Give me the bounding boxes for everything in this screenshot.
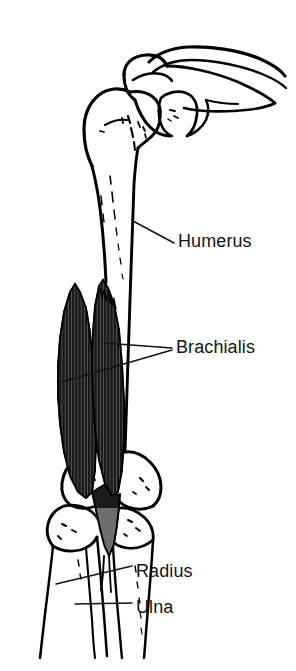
leader-line-humerus bbox=[133, 221, 174, 243]
anatomy-figure: Humerus Brachialis Radius Ulna bbox=[0, 0, 296, 671]
leader-line-ulna bbox=[75, 603, 132, 604]
label-brachialis: Brachialis bbox=[176, 338, 255, 356]
label-ulna: Ulna bbox=[136, 598, 173, 616]
leader-line-radius bbox=[56, 566, 132, 584]
label-humerus: Humerus bbox=[178, 232, 252, 250]
scapula-bone bbox=[124, 55, 275, 136]
ulna-bone bbox=[40, 505, 107, 658]
label-radius: Radius bbox=[136, 562, 193, 580]
